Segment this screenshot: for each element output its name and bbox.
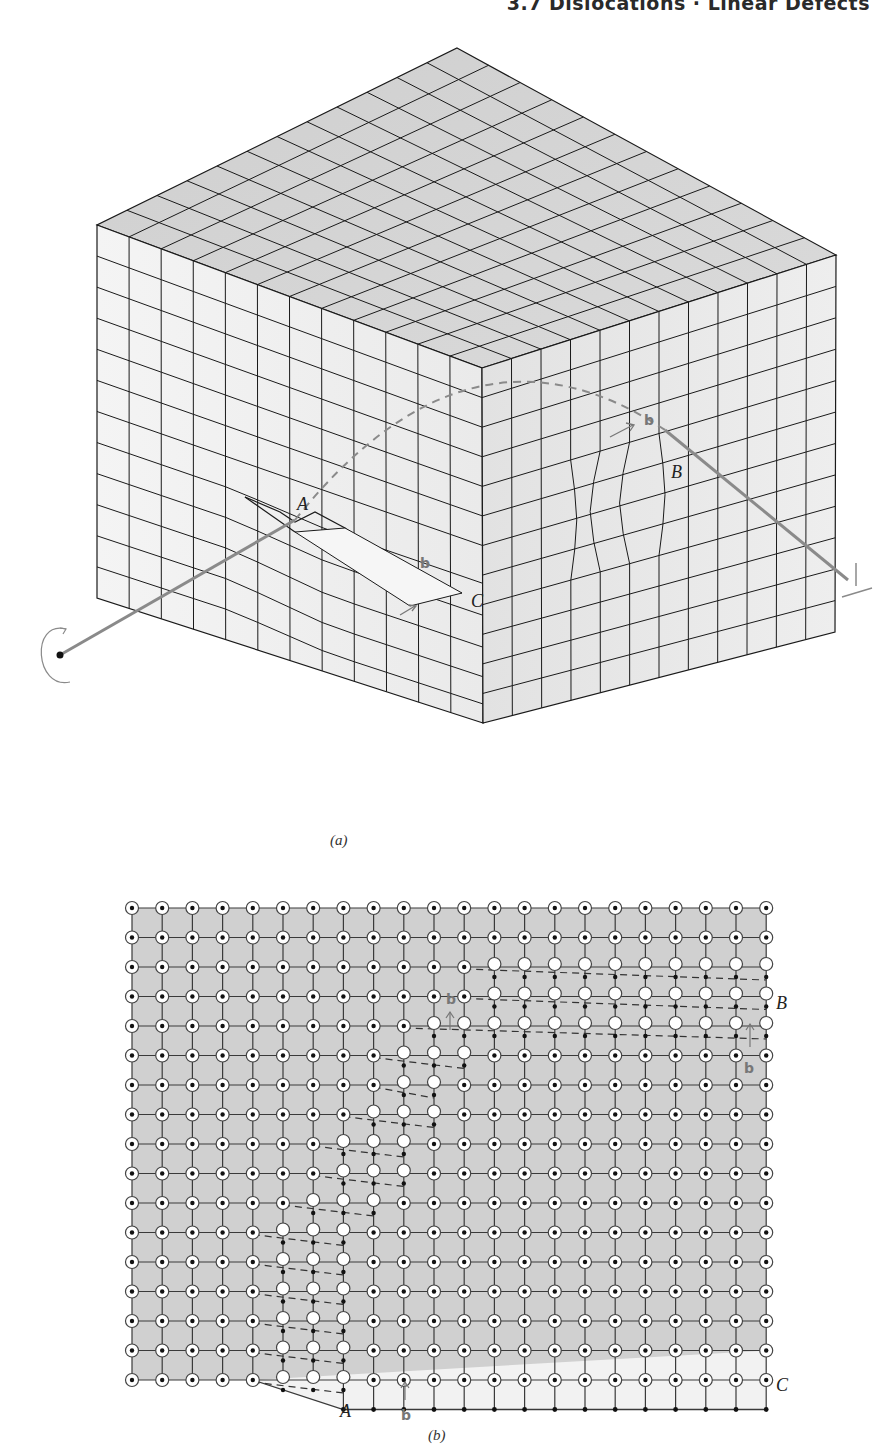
burgers-vector-label: b — [401, 1407, 411, 1423]
figure-b-caption: (b) — [428, 1427, 446, 1444]
label-c: C — [776, 1375, 789, 1395]
burgers-vector-label: b — [446, 991, 456, 1007]
label-b: B — [776, 993, 787, 1013]
burgers-vector-label: b — [744, 1060, 754, 1076]
figure-b-atom-plane: BCAbbb — [0, 0, 878, 1452]
label-a: A — [339, 1401, 352, 1421]
